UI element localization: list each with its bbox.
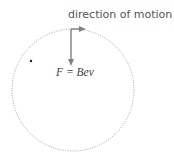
velocity-arrow (71, 26, 86, 32)
direction-of-motion-label: direction of motion (68, 8, 172, 21)
circular-orbit (12, 29, 134, 151)
force-arrow (68, 29, 74, 66)
force-formula-label: F = Bev (56, 66, 94, 78)
center-dot (30, 60, 32, 62)
motion-diagram (0, 0, 174, 161)
